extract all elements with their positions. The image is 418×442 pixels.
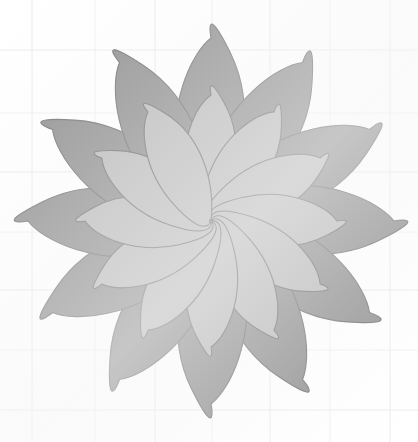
figure-canvas [0,0,418,442]
rosette-illustration [0,0,418,442]
rosette-center-point [209,219,213,223]
